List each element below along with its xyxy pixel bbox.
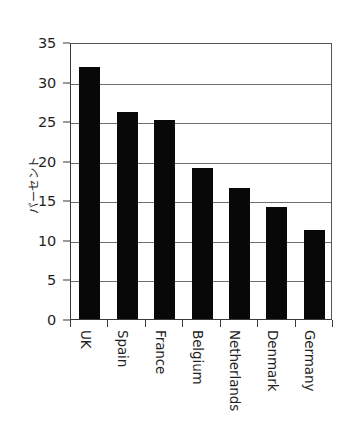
x-axis-tick-mark [182,320,183,327]
x-axis-tick-label-netherlands: Netherlands [227,330,243,426]
x-axis-tick-mark [107,320,108,327]
x-axis-tick-mark [257,320,258,327]
x-axis-tick-mark [145,320,146,327]
x-axis-tick-label-uk: UK [78,330,94,426]
x-axis-tick-mark [220,320,221,327]
x-axis-tick-mark [295,320,296,327]
x-axis-tick-label-germany: Germany [302,330,318,426]
x-axis-tick-mark [332,320,333,327]
x-axis-tick-mark [70,320,71,327]
x-axis-tick-label-spain: Spain [115,330,131,426]
x-axis-tick-label-france: France [153,330,169,426]
x-axis-tick-label-belgium: Belgium [190,330,206,426]
x-axis: UKSpainFranceBelgiumNetherlandsDenmarkGe… [0,0,351,426]
x-axis-tick-label-denmark: Denmark [265,330,281,426]
bar-chart: パーセント 05101520253035 UKSpainFranceBelgiu… [0,0,351,426]
